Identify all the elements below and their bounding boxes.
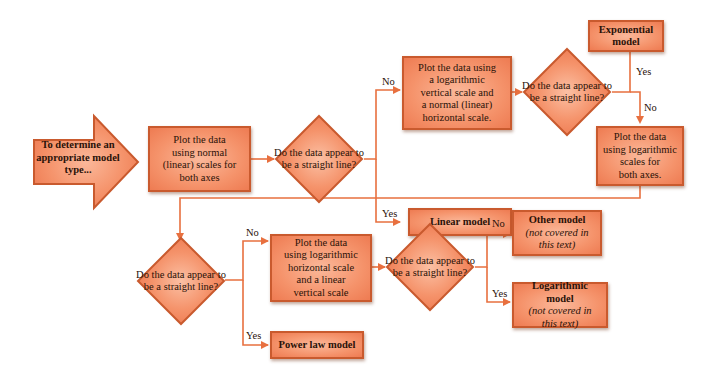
text-line: line? (447, 267, 467, 278)
text-line: vertical scale (284, 287, 358, 300)
text-line: Do the (274, 147, 302, 158)
start-line-3: type... (30, 164, 126, 177)
yes-label-1: Yes (382, 208, 397, 219)
yes-label-4: Yes (492, 288, 507, 299)
result-note: (not covered in (518, 305, 602, 318)
decision-straight-line-1: Do the data appear to be a straight line… (274, 114, 364, 204)
text-line: both axes. (603, 169, 677, 182)
text-line: both axes (163, 172, 236, 185)
text-line: using logarithmic (603, 144, 677, 157)
step-plot-semilog-vertical: Plot the data using a logarithmic vertic… (402, 56, 512, 130)
arrowhead-icon (636, 116, 644, 124)
no-label-4: No (492, 218, 505, 229)
text-line: data appear (553, 80, 601, 91)
step-plot-loglog: Plot the data using logarithmic scales f… (596, 126, 684, 186)
text-line: using logarithmic (284, 249, 358, 262)
no-label-3: No (246, 227, 259, 238)
result-other-model: Other model (not covered in this text) (512, 210, 602, 256)
text-line: horizontal scale. (418, 112, 496, 125)
result-label: Power law model (279, 339, 356, 352)
text-line: data appear (167, 269, 215, 280)
step-plot-semilog-horizontal: Plot the data using logarithmic horizont… (270, 234, 372, 302)
text-line: Plot the data (603, 131, 677, 144)
yes-label-3: Yes (246, 330, 261, 341)
text-line: data appear (305, 147, 353, 158)
yes-label-2: Yes (636, 66, 651, 77)
start-line-2: appropriate model (30, 152, 126, 165)
text-line: horizontal scale (284, 262, 358, 275)
text-line: line? (336, 159, 356, 170)
text-line: using normal (163, 147, 236, 160)
text-line: Do the (385, 255, 413, 266)
flowchart: To determine an appropriate model type..… (0, 0, 720, 382)
decision-straight-line-2: Do the data appear to be a straight line… (522, 47, 612, 137)
text-line: data appear (416, 255, 464, 266)
step-plot-linear-scales: Plot the data using normal (linear) scal… (148, 126, 251, 192)
text-line: and a linear (284, 274, 358, 287)
decision-straight-line-4: Do the data appear to be a straight line… (385, 222, 475, 312)
result-logarithmic-model: Logarithmic model (not covered in this t… (512, 282, 608, 328)
result-title: Logarithmic model (518, 280, 602, 305)
text-line: vertical scale and (418, 87, 496, 100)
no-label-1: No (382, 76, 395, 87)
text-line: Plot the data (163, 134, 236, 147)
text-line: scales for (603, 156, 677, 169)
text-line: Do the (522, 80, 550, 91)
text-line: Plot the data (284, 237, 358, 250)
result-note: this text) (518, 318, 602, 331)
text-line: model (599, 36, 653, 48)
text-line: line? (198, 281, 218, 292)
text-line: (linear) scales for (163, 159, 236, 172)
text-line: Plot the data using (418, 62, 496, 75)
result-power-law-model: Power law model (270, 331, 364, 359)
result-note: this text) (525, 239, 588, 252)
result-title: Other model (525, 214, 588, 227)
no-label-2: No (644, 102, 657, 113)
text-line: a logarithmic (418, 74, 496, 87)
text-line: a normal (linear) (418, 99, 496, 112)
start-line-1: To determine an (30, 139, 126, 152)
result-exponential-model: Exponential model (588, 20, 664, 52)
decision-straight-line-3: Do the data appear to be a straight line… (136, 236, 226, 326)
text-line: Exponential (599, 24, 653, 36)
text-line: Do the (136, 269, 164, 280)
text-line: line? (584, 92, 604, 103)
start-label: To determine an appropriate model type..… (30, 139, 126, 177)
result-note: (not covered in (525, 227, 588, 240)
